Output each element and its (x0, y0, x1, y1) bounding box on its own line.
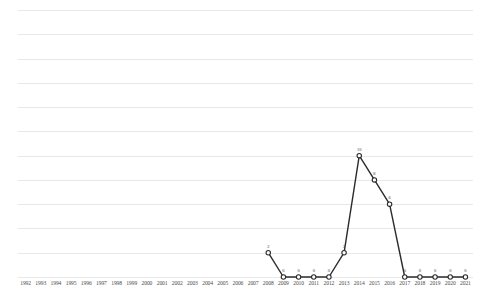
series-svg (18, 10, 473, 277)
x-axis-tick-2007: 2007 (248, 280, 259, 286)
data-point-marker[interactable] (327, 275, 331, 279)
data-point-marker[interactable] (357, 153, 361, 157)
data-point-marker[interactable] (342, 251, 346, 255)
x-axis-tick-2020: 2020 (445, 280, 456, 286)
x-axis-tick-1995: 1995 (66, 280, 77, 286)
x-axis-tick-2019: 2019 (430, 280, 441, 286)
x-axis-tick-1998: 1998 (111, 280, 122, 286)
x-axis-tick-1994: 1994 (51, 280, 62, 286)
data-point-label: 0 (282, 269, 284, 273)
x-axis: 1992199319941995199619971998199920002001… (18, 280, 473, 294)
x-axis-tick-2008: 2008 (263, 280, 274, 286)
data-point-label: 0 (419, 269, 421, 273)
x-axis-tick-2004: 2004 (202, 280, 213, 286)
x-axis-tick-2010: 2010 (293, 280, 304, 286)
data-point-marker[interactable] (312, 275, 316, 279)
plot-area: 200002108600000 (18, 10, 473, 277)
x-axis-tick-1993: 1993 (35, 280, 46, 286)
x-axis-tick-1992: 1992 (20, 280, 31, 286)
data-point-label: 0 (434, 269, 436, 273)
x-axis-tick-2021: 2021 (460, 280, 471, 286)
data-point-label: 0 (464, 269, 466, 273)
data-point-marker[interactable] (387, 202, 391, 206)
data-point-label: 0 (328, 269, 330, 273)
data-point-marker[interactable] (448, 275, 452, 279)
data-point-marker[interactable] (403, 275, 407, 279)
data-point-marker[interactable] (433, 275, 437, 279)
data-point-label: 10 (357, 148, 361, 152)
data-point-marker[interactable] (281, 275, 285, 279)
x-axis-tick-1997: 1997 (96, 280, 107, 286)
data-point-marker[interactable] (372, 178, 376, 182)
data-point-label: 0 (449, 269, 451, 273)
data-point-label: 8 (373, 172, 375, 176)
x-axis-tick-2009: 2009 (278, 280, 289, 286)
x-axis-tick-2015: 2015 (369, 280, 380, 286)
x-axis-tick-1996: 1996 (81, 280, 92, 286)
x-axis-tick-2016: 2016 (384, 280, 395, 286)
x-axis-tick-2000: 2000 (142, 280, 153, 286)
x-axis-tick-2013: 2013 (339, 280, 350, 286)
data-point-marker[interactable] (266, 251, 270, 255)
data-point-label: 0 (313, 269, 315, 273)
line-chart: 200002108600000 199219931994199519961997… (0, 0, 489, 301)
x-axis-tick-2014: 2014 (354, 280, 365, 286)
x-axis-tick-2001: 2001 (157, 280, 168, 286)
x-axis-tick-2005: 2005 (217, 280, 228, 286)
x-axis-tick-2011: 2011 (308, 280, 319, 286)
series-line (268, 156, 465, 277)
x-axis-tick-2017: 2017 (399, 280, 410, 286)
x-axis-tick-2002: 2002 (172, 280, 183, 286)
x-axis-tick-2003: 2003 (187, 280, 198, 286)
data-point-label: 2 (267, 245, 269, 249)
x-axis-tick-2018: 2018 (415, 280, 426, 286)
data-point-label: 0 (404, 269, 406, 273)
data-point-marker[interactable] (296, 275, 300, 279)
data-point-label: 6 (388, 196, 390, 200)
data-point-marker[interactable] (463, 275, 467, 279)
x-axis-tick-2006: 2006 (233, 280, 244, 286)
markers-layer (266, 153, 468, 279)
data-point-marker[interactable] (418, 275, 422, 279)
x-axis-tick-1999: 1999 (126, 280, 137, 286)
data-point-label: 0 (297, 269, 299, 273)
data-point-label: 2 (343, 245, 345, 249)
x-axis-tick-2012: 2012 (324, 280, 335, 286)
